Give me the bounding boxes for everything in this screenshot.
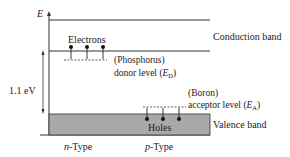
conduction-band-label: Conduction band [213,31,282,42]
valence-band-label: Valence band [213,119,267,130]
donor-label-line2: donor level (ED) [114,68,176,79]
p-type-label: p-Type [144,141,174,152]
acceptor-suffix: ) [257,100,260,111]
n-type-label: n-Type [64,141,93,152]
energy-gap-label: 1.1 eV [9,85,36,96]
donor-suffix: ) [173,68,176,79]
acceptor-label-line2: acceptor level (EA) [188,100,260,111]
axis-label: E [36,8,43,19]
band-diagram: E Conduction band Electrons (Phosphorus)… [0,0,290,157]
holes-label: Holes [148,122,171,133]
electrons-group [69,45,105,59]
gap-arrowhead-up-icon [42,50,45,55]
electron-dot [85,45,89,49]
hole-dot [145,117,149,121]
energy-gap-arrow [42,50,45,114]
axis-arrowhead-icon [47,11,51,16]
electron-dot [69,45,73,49]
donor-label-line1: (Phosphorus) [114,55,165,66]
n-type-rest: -Type [69,141,93,152]
hole-dot [161,117,165,121]
hole-dot [177,117,181,121]
electrons-label: Electrons [68,34,106,45]
donor-prefix: donor level ( [114,68,163,79]
acceptor-prefix: acceptor level ( [188,100,247,111]
acceptor-label-line1: (Boron) [188,88,218,99]
valence-band [49,114,210,135]
electron-dot [101,45,105,49]
p-type-rest: -Type [150,141,174,152]
gap-arrowhead-down-icon [42,109,45,114]
